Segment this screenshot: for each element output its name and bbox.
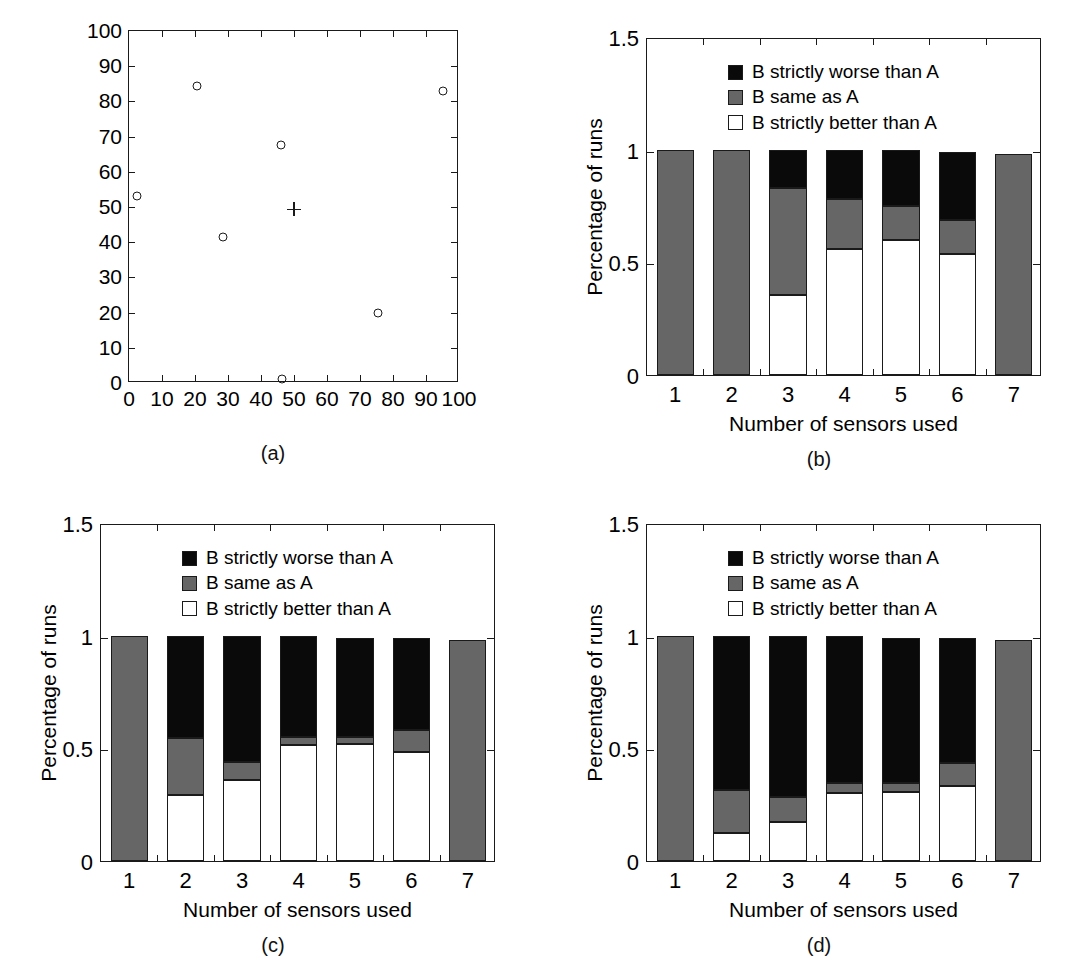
stacked-bar [336, 638, 373, 861]
y-axis-tick-mark-right [451, 172, 457, 173]
y-axis-tick-label: 90 [99, 54, 122, 78]
y-axis-tick-mark-right [1033, 638, 1040, 639]
x-axis-tick-mark [986, 855, 987, 861]
legend-label: B same as A [752, 85, 859, 109]
x-axis-tick-mark-top [816, 39, 817, 45]
x-axis-tick-mark-top [440, 525, 441, 531]
y-axis-tick-label: 1.5 [62, 512, 93, 538]
bar-segment [713, 833, 750, 861]
stacked-bar [826, 636, 863, 861]
x-axis-tick-mark-top [157, 525, 158, 531]
x-axis-tick-mark [327, 855, 328, 861]
legend-label: B same as A [752, 571, 859, 595]
y-axis-tick-mark [129, 207, 135, 208]
panel-a-scatter: 0102030405060708090100010203040506070809… [0, 0, 546, 486]
x-axis-tick-label: 5 [895, 868, 907, 894]
bar-segment [939, 638, 976, 763]
y-axis-tick-label: 70 [99, 125, 122, 149]
legend-label: B same as A [206, 571, 313, 595]
panel-a-caption: (a) [0, 442, 546, 465]
x-axis-tick-label: 60 [315, 387, 338, 411]
legend-item: B same as A [182, 571, 393, 595]
legend-item: B same as A [728, 571, 939, 595]
x-axis-tick-label: 20 [183, 387, 206, 411]
x-axis-tick-mark-top [986, 39, 987, 45]
x-axis-tick-mark [440, 855, 441, 861]
x-axis-tick-label: 5 [895, 382, 907, 408]
bar-segment [167, 795, 204, 861]
stacked-bar [713, 150, 750, 375]
y-axis-tick-label: 1.5 [608, 26, 639, 52]
x-axis-tick-mark [703, 855, 704, 861]
bar-segment [167, 738, 204, 794]
x-axis-tick-mark-top [929, 525, 930, 531]
y-axis-tick-mark-right [451, 348, 457, 349]
y-axis-label: Percentage of runs [582, 118, 606, 295]
x-axis-tick-label: 7 [462, 868, 474, 894]
chart-legend: B strictly worse than AB same as AB stri… [182, 546, 393, 622]
bar-segment [769, 295, 806, 375]
y-axis-tick-label: 0 [81, 850, 93, 876]
x-axis-tick-mark-top [703, 525, 704, 531]
stacked-bar [713, 636, 750, 861]
bar-segment [336, 737, 373, 744]
stacked-bar [111, 636, 148, 861]
y-axis-tick-mark [647, 264, 654, 265]
y-axis-tick-label: 1.5 [608, 512, 639, 538]
legend-item: B strictly better than A [182, 597, 393, 621]
bar-segment [167, 636, 204, 739]
x-axis-tick-label: 100 [441, 387, 476, 411]
x-axis-tick-mark [929, 855, 930, 861]
bar-segment [769, 188, 806, 295]
x-axis-tick-mark [816, 855, 817, 861]
y-axis-tick-mark-right [487, 750, 494, 751]
bar-segment [882, 150, 919, 206]
bar-segment [882, 783, 919, 792]
x-axis-tick-label: 30 [216, 387, 239, 411]
stacked-bar [393, 638, 430, 861]
x-axis-tick-mark [873, 369, 874, 375]
y-axis-tick-mark-right [487, 638, 494, 639]
x-axis-tick-mark-top [986, 525, 987, 531]
x-axis-tick-mark [393, 375, 394, 381]
bar-segment [826, 783, 863, 793]
x-axis-tick-mark-top [195, 31, 196, 37]
x-axis-tick-label: 7 [1008, 868, 1020, 894]
bar-segment [826, 150, 863, 200]
stacked-bar [995, 640, 1032, 861]
x-axis-tick-mark [873, 855, 874, 861]
y-axis-tick-label: 20 [99, 301, 122, 325]
y-axis-tick-label: 60 [99, 160, 122, 184]
y-axis-tick-mark-right [451, 242, 457, 243]
stacked-bar [280, 636, 317, 861]
x-axis-tick-label: 70 [348, 387, 371, 411]
x-axis-tick-mark [162, 375, 163, 381]
bar-segment [939, 254, 976, 375]
y-axis-tick-label: 50 [99, 195, 122, 219]
x-axis-tick-mark-top [929, 39, 930, 45]
y-axis-tick-mark [129, 277, 135, 278]
stacked-bar [167, 636, 204, 861]
x-axis-tick-label: 6 [951, 382, 963, 408]
legend-label: B strictly better than A [752, 111, 937, 135]
x-axis-tick-label: 6 [405, 868, 417, 894]
stacked-bar [882, 638, 919, 861]
y-axis-tick-mark-right [451, 313, 457, 314]
y-axis-tick-mark [129, 348, 135, 349]
x-axis-tick-mark-top [873, 525, 874, 531]
y-axis-tick-mark [647, 750, 654, 751]
legend-swatch [728, 65, 743, 80]
stacked-bar [769, 636, 806, 861]
bar-segment [393, 752, 430, 861]
y-axis-tick-mark-right [1033, 152, 1040, 153]
chart-legend: B strictly worse than AB same as AB stri… [728, 60, 939, 136]
x-axis-tick-label: 0 [123, 387, 135, 411]
x-axis-tick-mark-top [360, 31, 361, 37]
legend-swatch [728, 90, 743, 105]
x-axis-tick-label: 2 [726, 382, 738, 408]
x-axis-tick-mark-top [873, 39, 874, 45]
y-axis-tick-mark [101, 750, 108, 751]
y-axis-tick-mark [101, 638, 108, 639]
x-axis-tick-label: 6 [951, 868, 963, 894]
y-axis-tick-mark [129, 242, 135, 243]
